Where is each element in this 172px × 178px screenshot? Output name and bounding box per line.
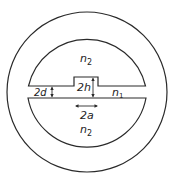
film-thickness-arrow [50, 87, 53, 98]
rib-height-label: 2h [77, 81, 91, 94]
lower-cladding-boundary [28, 98, 146, 147]
lower-cladding-subscript: 2 [87, 129, 92, 138]
film-thickness-label: 2d [34, 87, 47, 98]
guiding-layer-label: n1 [112, 86, 123, 100]
upper-cladding-subscript: 2 [87, 58, 92, 67]
upper-cladding-label: n2 [80, 52, 92, 67]
guiding-layer-subscript: 1 [119, 92, 123, 100]
waveguide-diagram: n2 n2 n1 2d 2h 2a [0, 0, 172, 178]
rib-width-arrow [75, 104, 98, 107]
rib-width-label: 2a [80, 109, 94, 122]
lower-cladding-label: n2 [80, 123, 92, 138]
rib-height-arrow [91, 78, 94, 98]
